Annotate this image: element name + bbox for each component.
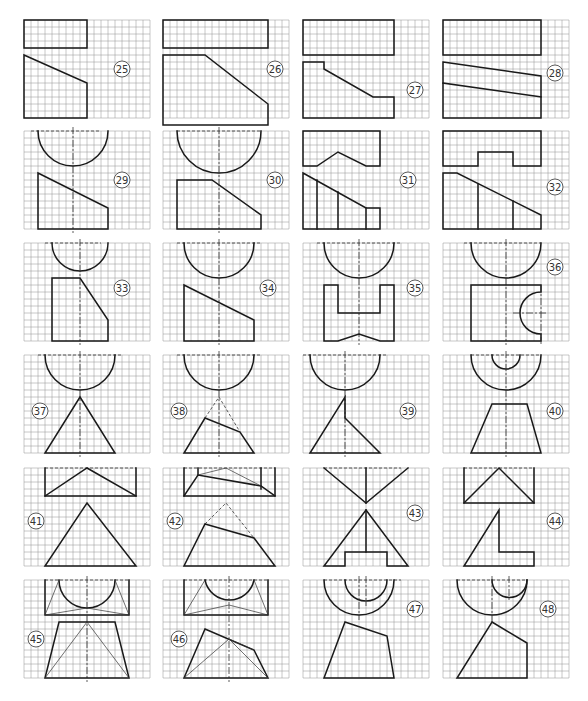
problem-37: 37 <box>24 351 150 457</box>
problem-30: 30 <box>163 127 289 233</box>
top-view-semicircle <box>205 580 254 600</box>
svg-text:44: 44 <box>549 516 562 527</box>
svg-text:27: 27 <box>409 85 422 96</box>
problem-38: 38 <box>163 351 289 457</box>
problem-label: 31 <box>400 172 416 188</box>
problem-36: 36 <box>443 239 569 345</box>
exercise-sheet: 25 26 27 28 <box>0 0 588 701</box>
problem-47: 47 <box>303 576 429 678</box>
problem-26: 26 <box>163 20 289 125</box>
problem-45: 45 <box>24 576 150 682</box>
problem-label: 38 <box>171 403 187 419</box>
svg-text:39: 39 <box>402 406 415 417</box>
grid-paper <box>163 580 289 678</box>
problem-label: 45 <box>28 631 44 647</box>
svg-text:45: 45 <box>30 634 43 645</box>
problem-35: 35 <box>303 239 429 345</box>
svg-text:48: 48 <box>542 604 555 615</box>
problem-34: 34 <box>163 239 289 345</box>
problem-label: 30 <box>267 172 283 188</box>
problem-label: 33 <box>114 280 130 296</box>
problem-label: 42 <box>167 513 183 529</box>
problem-27: 27 <box>303 20 429 118</box>
problem-label: 32 <box>547 179 563 195</box>
svg-text:30: 30 <box>269 175 282 186</box>
problem-label: 46 <box>171 631 187 647</box>
svg-text:25: 25 <box>116 64 129 75</box>
svg-text:42: 42 <box>169 516 182 527</box>
problem-41: 41 <box>24 468 150 566</box>
grid-paper <box>443 580 569 678</box>
problem-label: 34 <box>260 280 276 296</box>
problem-46: 46 <box>163 576 289 682</box>
problem-31: 31 <box>303 131 429 229</box>
problem-label: 47 <box>407 601 423 617</box>
problem-29: 29 <box>24 127 150 233</box>
problem-43: 43 <box>303 468 429 566</box>
problem-label: 44 <box>547 513 563 529</box>
svg-text:34: 34 <box>262 283 275 294</box>
problem-label: 39 <box>400 403 416 419</box>
removed-apex <box>205 503 254 538</box>
problem-32: 32 <box>443 131 569 229</box>
svg-text:41: 41 <box>30 516 43 527</box>
problem-label: 37 <box>32 403 48 419</box>
top-view <box>303 131 380 166</box>
svg-text:29: 29 <box>116 175 129 186</box>
problem-label: 25 <box>114 61 130 77</box>
problem-label: 43 <box>407 505 423 521</box>
problem-44: 44 <box>443 468 569 566</box>
problem-25: 25 <box>24 20 150 118</box>
front-view-triangle <box>45 503 136 566</box>
svg-text:36: 36 <box>549 262 562 273</box>
svg-text:31: 31 <box>402 175 415 186</box>
grid-paper <box>24 243 150 341</box>
problem-label: 35 <box>407 280 423 296</box>
svg-text:37: 37 <box>34 406 47 417</box>
problem-40: 40 <box>443 351 569 457</box>
problem-label: 48 <box>540 601 556 617</box>
problem-label: 40 <box>547 403 563 419</box>
problem-39: 39 <box>303 351 429 457</box>
svg-text:35: 35 <box>409 283 422 294</box>
grid-paper <box>443 131 569 229</box>
problem-label: 41 <box>28 513 44 529</box>
problem-label: 28 <box>547 65 563 81</box>
grid-paper <box>303 20 429 118</box>
top-view-edges <box>184 580 205 615</box>
problem-label: 26 <box>267 61 283 77</box>
problem-label: 27 <box>407 82 423 98</box>
svg-text:38: 38 <box>173 406 186 417</box>
svg-text:32: 32 <box>549 182 562 193</box>
svg-text:46: 46 <box>173 634 186 645</box>
svg-text:28: 28 <box>549 68 562 79</box>
svg-text:47: 47 <box>409 604 422 615</box>
svg-text:43: 43 <box>409 508 422 519</box>
front-view <box>24 55 87 118</box>
grid-paper <box>24 131 150 229</box>
svg-text:26: 26 <box>269 64 282 75</box>
problem-48: 48 <box>443 576 569 678</box>
svg-text:33: 33 <box>116 283 129 294</box>
problem-33: 33 <box>24 239 150 345</box>
problem-42: 42 <box>163 468 289 566</box>
top-view-inner-arc <box>492 580 527 598</box>
problem-label: 29 <box>114 172 130 188</box>
svg-text:40: 40 <box>549 406 562 417</box>
problem-label: 36 <box>547 259 563 275</box>
top-view <box>303 20 394 55</box>
removed-apex <box>205 397 240 432</box>
problem-28: 28 <box>443 20 569 118</box>
